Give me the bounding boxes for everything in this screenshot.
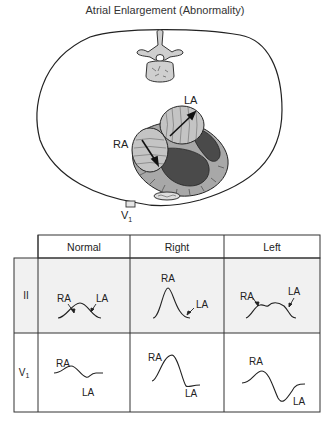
label-ra: RA [113,138,129,150]
figure-canvas: LA RA V1 Normal Right Left II V1 RA [0,0,330,431]
v1-normal-la: LA [82,387,95,398]
ii-normal-ra: RA [57,293,71,304]
column-header-right: Right [165,241,190,253]
ii-normal-la: LA [96,293,109,304]
column-header-left: Left [263,241,281,253]
electrode-v1-icon [126,201,135,207]
aorta-icon [154,192,180,200]
heart-illustration [132,106,228,200]
v1-normal-ra: RA [56,358,70,369]
column-header-normal: Normal [67,241,101,253]
ii-right-la: LA [196,299,209,310]
row-label-lead-v1: V1 [19,367,30,379]
ii-left-ra: RA [240,291,254,302]
v1-left-ra: RA [249,356,263,367]
v1-right-ra: RA [148,352,162,363]
right-atrium [132,128,168,172]
vertebra-icon [137,30,183,82]
label-la: LA [184,94,198,106]
ii-left-la: LA [288,286,301,297]
row-label-lead-ii: II [23,290,29,301]
label-electrode: V1 [121,209,132,223]
p-wave-table [14,235,320,412]
v1-right-la: LA [185,388,198,399]
ii-right-ra: RA [161,273,175,284]
v1-left-la: LA [293,396,306,407]
